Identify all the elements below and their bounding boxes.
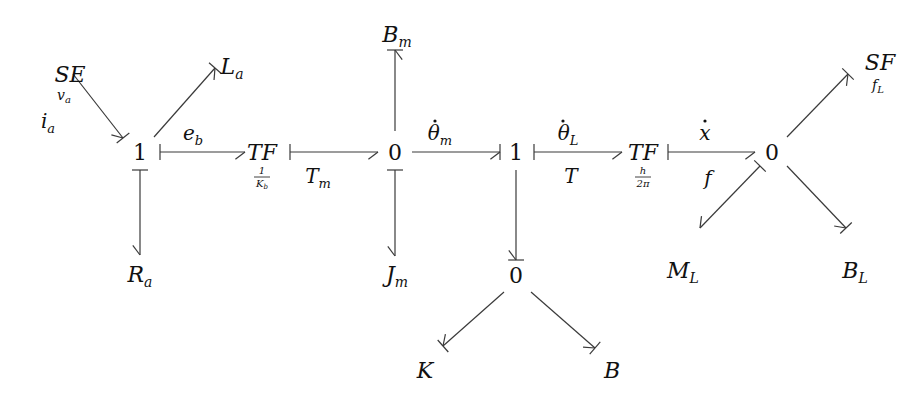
node-SE: SEva xyxy=(54,62,85,105)
half-arrow-icon xyxy=(133,245,140,255)
causal-stroke-icon xyxy=(117,133,130,143)
variable-label: ia xyxy=(41,109,55,136)
bond-J1a-Ra xyxy=(132,170,148,255)
node-SF: SFfL xyxy=(865,50,896,95)
bond-J0b-B xyxy=(531,292,600,354)
ratio-denominator: Kb xyxy=(255,178,268,191)
ratio-numerator: h xyxy=(640,165,646,176)
element-label: TF xyxy=(628,140,659,165)
bond-label-Tm: Tm xyxy=(305,164,331,191)
junction-label: 0 xyxy=(388,140,402,165)
element-subscript: m xyxy=(395,274,408,290)
element-label: B xyxy=(603,358,620,383)
causal-stroke-icon xyxy=(438,340,449,352)
junction-label: 0 xyxy=(509,263,523,288)
node-J0c: 0 xyxy=(765,140,779,165)
bond-line xyxy=(443,292,504,346)
half-arrow-icon xyxy=(388,246,395,256)
variable-label: eb xyxy=(183,121,203,148)
element-subscript: L xyxy=(689,270,699,286)
half-arrow-icon xyxy=(235,152,245,159)
element-label: ML xyxy=(666,258,699,286)
element-label: SE xyxy=(54,62,85,87)
half-arrow-icon xyxy=(368,152,378,159)
half-arrow-icon xyxy=(395,50,402,60)
bond-label-theta_m: θm xyxy=(428,119,452,148)
half-arrow-icon xyxy=(612,152,622,159)
junction-label: 0 xyxy=(765,140,779,165)
node-Bm: Bm xyxy=(381,22,411,50)
half-arrow-icon xyxy=(583,347,595,348)
bond-J0a-Jm xyxy=(387,170,403,256)
variable-label: T xyxy=(564,164,579,188)
element-subscript: a xyxy=(144,274,152,290)
source-parameter: fL xyxy=(871,77,884,95)
half-arrow-icon xyxy=(745,152,755,159)
node-BL: BL xyxy=(841,258,867,286)
bond-line xyxy=(787,74,848,137)
node-J1b: 1 xyxy=(509,140,523,165)
bonds-layer xyxy=(73,50,854,354)
half-arrow-icon xyxy=(490,152,500,159)
element-label: K xyxy=(416,358,435,383)
time-derivative-dot xyxy=(433,119,436,122)
bond-label-xdot: x xyxy=(699,119,710,145)
variable-label: Tm xyxy=(305,164,331,191)
element-label: BL xyxy=(841,258,867,286)
half-arrow-icon xyxy=(509,250,516,260)
junction-label: 1 xyxy=(509,140,523,165)
bond-J0c-SF xyxy=(787,68,854,137)
bond-label-f: f xyxy=(702,166,715,190)
element-label: Jm xyxy=(382,262,408,290)
bond-J0a-Bm xyxy=(387,50,403,131)
variable-label: θm xyxy=(428,121,452,148)
node-B: B xyxy=(603,358,620,383)
variable-label: f xyxy=(702,166,715,190)
bond-J0a-J1b xyxy=(412,144,500,160)
node-La: La xyxy=(220,54,244,82)
bond-label-T: T xyxy=(564,164,579,188)
element-label: La xyxy=(220,54,244,82)
bond-J1b-J0b xyxy=(508,170,524,260)
element-label: TF xyxy=(247,140,278,165)
node-TF2: TFh2π xyxy=(628,140,659,189)
bond-label-theta_L: θL xyxy=(558,119,579,148)
node-ML: ML xyxy=(666,258,699,286)
variable-label: θL xyxy=(558,121,579,148)
element-subscript: L xyxy=(857,270,867,286)
ratio-denominator: 2π xyxy=(636,178,650,189)
element-label: Bm xyxy=(381,22,411,50)
bond-line xyxy=(531,292,595,348)
bond-J0b-K xyxy=(438,292,504,352)
time-derivative-dot xyxy=(561,119,564,122)
node-J0b: 0 xyxy=(509,263,523,288)
node-K: K xyxy=(416,358,435,383)
element-subscript: a xyxy=(235,66,243,82)
bond-TF1-J0a xyxy=(290,144,378,160)
source-parameter: va xyxy=(57,87,71,105)
variable-label: x xyxy=(699,121,710,145)
node-J1a: 1 xyxy=(133,140,147,165)
bond-graph-diagram: SEvaLa1RaTF1Kb0BmJm10KBTFh2π0SFfLMLBL ia… xyxy=(0,0,923,400)
element-label: SF xyxy=(865,50,896,75)
junction-label: 1 xyxy=(133,140,147,165)
element-subscript: m xyxy=(398,34,411,50)
element-label: Ra xyxy=(127,262,153,290)
bond-line xyxy=(787,166,846,228)
node-J0a: 0 xyxy=(388,140,402,165)
node-Ra: Ra xyxy=(127,262,153,290)
bond-label-eb: eb xyxy=(183,121,203,148)
node-TF1: TF1Kb xyxy=(247,140,278,191)
bond-J0c-BL xyxy=(787,166,852,234)
node-Jm: Jm xyxy=(382,262,408,290)
nodes-layer: SEvaLa1RaTF1Kb0BmJm10KBTFh2π0SFfLMLBL xyxy=(54,22,895,383)
bond-TF2-J0c xyxy=(668,144,755,160)
time-derivative-dot xyxy=(703,119,706,122)
ratio-numerator: 1 xyxy=(259,165,265,176)
bond-label-ia: ia xyxy=(41,109,55,136)
